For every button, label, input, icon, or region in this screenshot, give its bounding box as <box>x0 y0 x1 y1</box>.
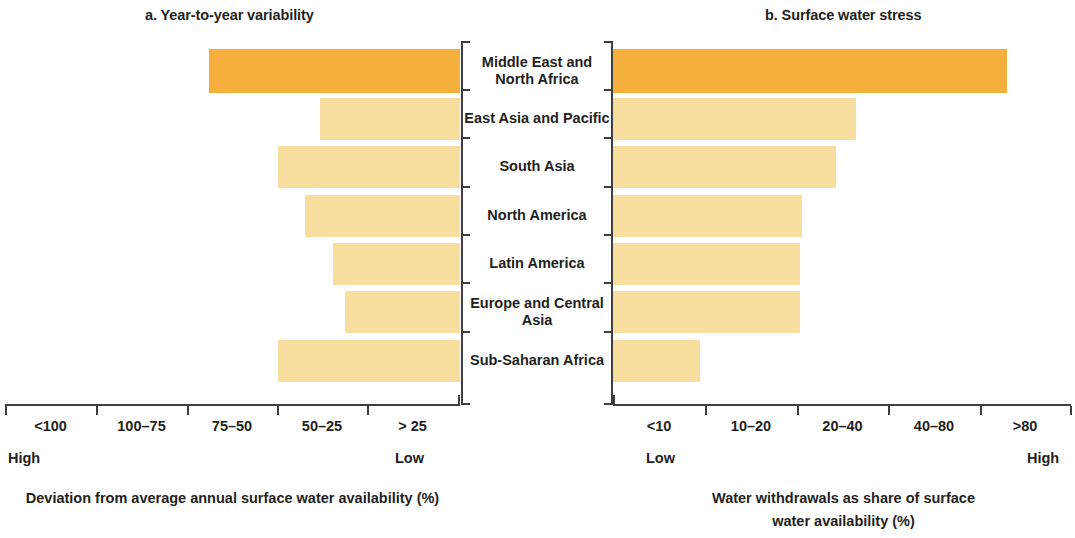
category-row: Sub-Saharan Africa <box>461 340 613 382</box>
axis-tick <box>1070 406 1072 415</box>
panel-b-bar[interactable] <box>613 195 802 237</box>
axis-tick <box>187 406 189 415</box>
panel-a-bar-row <box>0 340 461 382</box>
panel-b-bar[interactable] <box>613 146 836 188</box>
panel-a-right-end-label: Low <box>395 450 424 466</box>
panel-b-axis-caption: Water withdrawals as share of surface wa… <box>612 487 1075 533</box>
axis-tick <box>5 406 7 415</box>
category-label: Middle East and North Africa <box>482 54 592 88</box>
panel-a-bar-rows <box>0 41 461 401</box>
panel-a-bar[interactable] <box>278 340 460 382</box>
category-row: Middle East and North Africa <box>461 49 613 93</box>
axis-tick <box>705 406 707 415</box>
panel-b-tick-label: 10–20 <box>731 418 771 434</box>
category-label: North America <box>487 207 586 224</box>
panel-a-bar-row <box>0 146 461 188</box>
category-label-column: Middle East and North AfricaEast Asia an… <box>461 41 613 404</box>
panel-b-tick-label: >80 <box>1013 418 1038 434</box>
panel-b-axis-line <box>613 404 1071 406</box>
panel-b-title: b. Surface water stress <box>765 7 921 23</box>
category-row: South Asia <box>461 146 613 188</box>
panel-b-bar[interactable] <box>613 98 856 140</box>
axis-tick <box>96 406 98 415</box>
panel-b-tick-label: 40–80 <box>914 418 954 434</box>
category-label: South Asia <box>499 158 574 175</box>
category-axis-tick <box>604 403 613 405</box>
figure-root: a. Year-to-year variability b. Surface w… <box>0 0 1075 538</box>
panel-a-bar-row <box>0 291 461 333</box>
category-label: Latin America <box>489 255 584 272</box>
axis-tick <box>613 395 615 405</box>
panel-a-bar[interactable] <box>278 146 460 188</box>
panel-a-title: a. Year-to-year variability <box>145 7 314 23</box>
panel-a-tick-label: > 25 <box>398 418 427 434</box>
axis-tick <box>980 406 982 415</box>
panel-b-plot <box>612 41 1075 404</box>
panel-a-bar[interactable] <box>333 243 460 285</box>
panel-b-bar-rows <box>612 41 1075 401</box>
category-axis-tick <box>461 41 470 43</box>
panel-b-bar-row <box>612 340 1075 382</box>
category-axis-tick <box>461 403 470 405</box>
panel-b-tick-label: <10 <box>647 418 672 434</box>
panel-a-axis-line <box>5 404 460 406</box>
panel-a-tick-label: 50–25 <box>302 418 342 434</box>
panel-a-bar-row <box>0 195 461 237</box>
panel-b-bar-row <box>612 98 1075 140</box>
category-row: East Asia and Pacific <box>461 98 613 140</box>
category-axis-tick <box>604 41 613 43</box>
category-row: North America <box>461 195 613 237</box>
panel-b-right-end-label: High <box>1027 450 1059 466</box>
panel-b-bar[interactable] <box>613 291 800 333</box>
panel-b-bar-row <box>612 146 1075 188</box>
category-label: Europe and Central Asia <box>470 295 604 329</box>
category-label: East Asia and Pacific <box>464 110 609 127</box>
panel-a-tick-label: 75–50 <box>212 418 252 434</box>
category-row: Latin America <box>461 243 613 285</box>
panel-a-left-end-label: High <box>8 450 40 466</box>
panel-a-plot <box>0 41 461 404</box>
panel-a-axis-caption: Deviation from average annual surface wa… <box>0 487 465 510</box>
axis-tick <box>458 395 460 405</box>
panel-a-bar[interactable] <box>345 291 460 333</box>
axis-tick <box>367 406 369 415</box>
category-label: Sub-Saharan Africa <box>470 352 604 369</box>
panel-a-tick-label: <100 <box>34 418 67 434</box>
panel-b-bar[interactable] <box>613 243 800 285</box>
axis-tick <box>277 406 279 415</box>
panel-b-left-end-label: Low <box>646 450 675 466</box>
panel-b-bar-row <box>612 243 1075 285</box>
panel-a-bar[interactable] <box>320 98 460 140</box>
panel-a-bar[interactable] <box>209 49 460 93</box>
panel-b-bar-row <box>612 195 1075 237</box>
panel-a-bar[interactable] <box>305 195 460 237</box>
panel-b-bar[interactable] <box>613 340 700 382</box>
panel-a-tick-label: 100–75 <box>117 418 165 434</box>
axis-tick <box>797 406 799 415</box>
panel-b-bar-row <box>612 49 1075 93</box>
panel-a-bar-row <box>0 98 461 140</box>
panel-b-tick-label: 20–40 <box>822 418 862 434</box>
panel-a-bar-row <box>0 49 461 93</box>
category-row: Europe and Central Asia <box>461 291 613 333</box>
panel-b-bar-row <box>612 291 1075 333</box>
panel-b-bar[interactable] <box>613 49 1007 93</box>
axis-tick <box>888 406 890 415</box>
panel-a-bar-row <box>0 243 461 285</box>
